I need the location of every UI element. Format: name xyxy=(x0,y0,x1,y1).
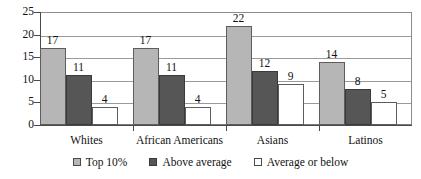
x-axis-category-label: Asians xyxy=(226,134,319,146)
bar-value-label: 17 xyxy=(40,35,66,47)
bar xyxy=(345,89,371,125)
bar xyxy=(252,71,278,125)
chart-legend: Top 10%Above averageAverage or below xyxy=(0,156,421,168)
bar-value-label: 17 xyxy=(133,35,159,47)
bar-value-label: 4 xyxy=(92,94,118,106)
y-tick-mark xyxy=(34,35,40,36)
legend-swatch-icon xyxy=(149,158,157,166)
legend-item[interactable]: Average or below xyxy=(254,156,349,168)
bar-value-label: 11 xyxy=(159,62,185,74)
legend-item[interactable]: Top 10% xyxy=(73,156,128,168)
x-tick-mark xyxy=(133,125,134,131)
y-tick-mark xyxy=(34,80,40,81)
bar-value-label: 4 xyxy=(185,94,211,106)
y-tick-label: 15 xyxy=(6,51,34,63)
y-tick-mark xyxy=(34,12,40,13)
bar-value-label: 12 xyxy=(252,58,278,70)
legend-swatch-icon xyxy=(254,158,262,166)
bar-value-label: 22 xyxy=(226,13,252,25)
bar xyxy=(92,107,118,125)
x-axis-category-label: African Americans xyxy=(133,134,226,146)
legend-label: Average or below xyxy=(267,156,349,168)
bar-value-label: 11 xyxy=(66,62,92,74)
y-tick-mark xyxy=(34,125,40,126)
bar-value-label: 9 xyxy=(278,71,304,83)
legend-swatch-icon xyxy=(73,158,81,166)
bars-layer xyxy=(40,12,412,125)
bar xyxy=(185,107,211,125)
x-tick-mark xyxy=(226,125,227,131)
y-tick-label: 10 xyxy=(6,74,34,86)
bar-value-label: 8 xyxy=(345,76,371,88)
bar xyxy=(159,75,185,125)
bar-chart: 0510152025 1711417114221291485 WhitesAfr… xyxy=(0,0,421,179)
bar xyxy=(226,26,252,125)
x-axis-category-label: Latinos xyxy=(319,134,412,146)
x-tick-mark xyxy=(319,125,320,131)
y-tick-label: 0 xyxy=(6,119,34,131)
bar xyxy=(319,62,345,125)
legend-label: Top 10% xyxy=(86,156,128,168)
y-tick-label: 20 xyxy=(6,29,34,41)
bar-value-label: 14 xyxy=(319,49,345,61)
legend-label: Above average xyxy=(162,156,231,168)
y-tick-mark xyxy=(34,102,40,103)
y-tick-label: 5 xyxy=(6,96,34,108)
x-axis-category-label: Whites xyxy=(40,134,133,146)
y-tick-label: 25 xyxy=(6,6,34,18)
y-axis: 0510152025 xyxy=(0,0,34,179)
bar xyxy=(133,48,159,125)
bar xyxy=(66,75,92,125)
bar-value-label: 5 xyxy=(371,89,397,101)
y-tick-mark xyxy=(34,57,40,58)
bar xyxy=(371,102,397,125)
bar xyxy=(278,84,304,125)
legend-item[interactable]: Above average xyxy=(149,156,231,168)
bar xyxy=(40,48,66,125)
